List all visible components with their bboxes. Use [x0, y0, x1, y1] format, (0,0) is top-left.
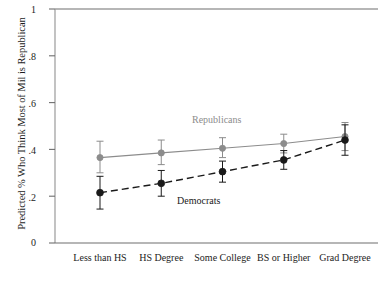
data-point — [158, 180, 165, 187]
data-point — [219, 145, 225, 151]
series-layer — [97, 122, 349, 209]
data-point — [280, 157, 287, 164]
data-point — [97, 189, 104, 196]
y-axis-ticks — [49, 9, 55, 243]
chart-plot-area — [0, 0, 390, 289]
data-point — [281, 140, 287, 146]
data-point — [219, 168, 226, 175]
data-point — [342, 137, 349, 144]
chart-figure: Predicted % Who Think Most of Mil is Rep… — [0, 0, 390, 289]
axis-lines — [55, 9, 378, 243]
data-point — [97, 154, 103, 160]
data-point — [158, 150, 164, 156]
